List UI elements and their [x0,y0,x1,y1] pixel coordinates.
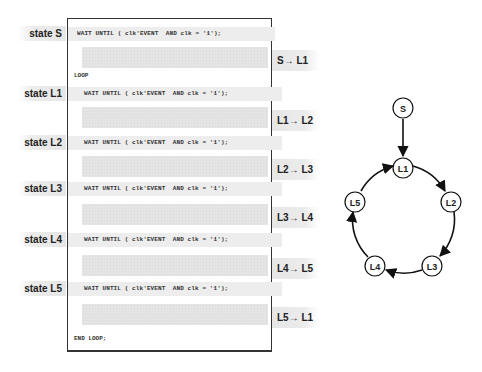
edge-l3-l4 [386,270,422,273]
svg-text:L2: L2 [446,198,457,208]
node-l2: L2 [441,192,461,212]
node-l3: L3 [422,256,442,276]
svg-text:L1: L1 [398,164,409,174]
svg-text:L4: L4 [370,262,381,272]
node-s: S [393,98,413,118]
state-diagram: S L1 L2 L3 L4 L5 [0,0,482,372]
edge-l5-l1 [361,166,393,191]
edge-l4-l5 [352,212,368,257]
edge-l1-l2 [413,166,445,191]
svg-text:L3: L3 [427,262,438,272]
edge-l2-l3 [440,212,455,256]
svg-text:S: S [400,104,406,114]
node-l4: L4 [365,256,385,276]
svg-text:L5: L5 [350,198,361,208]
node-l1: L1 [393,158,413,178]
node-l5: L5 [345,192,365,212]
